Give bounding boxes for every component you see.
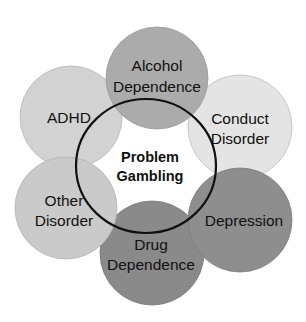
node-conduct-label-line2: Disorder: [211, 130, 270, 147]
node-drug-label-line2: Dependence: [107, 256, 195, 273]
center-label-line1: Problem: [121, 149, 179, 165]
node-alcohol-label-line2: Dependence: [113, 78, 201, 95]
node-other-label-line1: Other: [45, 192, 84, 209]
node-adhd-label: ADHD: [47, 109, 91, 126]
node-other-disorder: Other Disorder: [15, 157, 117, 259]
node-conduct-label-line1: Conduct: [211, 110, 269, 127]
node-alcohol-dependence: Alcohol Dependence: [106, 27, 208, 129]
node-drug-label-line1: Drug: [134, 236, 168, 253]
center-label-line2: Gambling: [117, 168, 184, 184]
comorbidity-diagram: ADHD Conduct Disorder Drug Dependence Al…: [0, 0, 306, 322]
node-depression-label: Depression: [205, 212, 283, 229]
node-alcohol-label-line1: Alcohol: [132, 57, 183, 74]
node-depression: Depression: [188, 168, 292, 272]
node-other-label-line2: Disorder: [35, 212, 94, 229]
